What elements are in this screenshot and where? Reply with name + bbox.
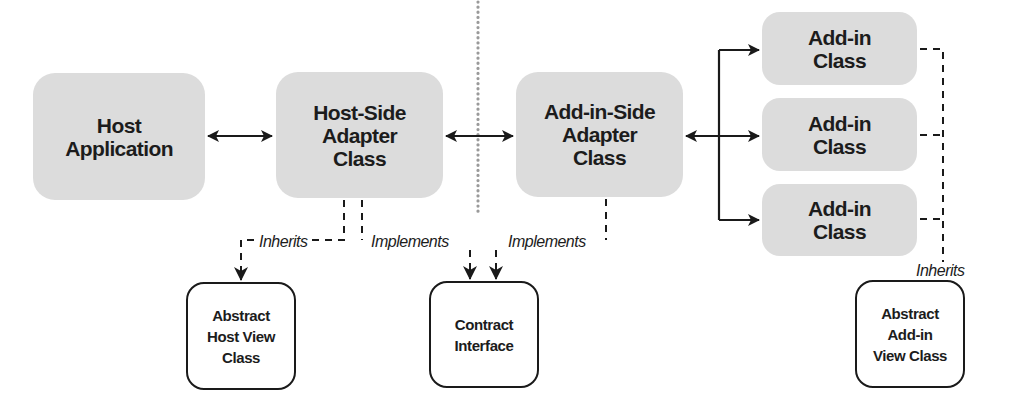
edge-label-addin-inherits: Inherits (914, 262, 966, 280)
node-addin-class-2: Add-in Class (762, 98, 917, 171)
node-host-side-adapter: Host-Side Adapter Class (276, 72, 443, 198)
edge-label-addin-implements: Implements (505, 233, 589, 251)
node-label: Abstract Add-in View Class (873, 303, 947, 366)
node-label: Add-in Class (808, 197, 871, 243)
node-label: Add-in Class (808, 26, 871, 72)
node-contract-interface: Contract Interface (429, 281, 539, 388)
edge-label-host-implements: Implements (368, 233, 452, 251)
node-label: Abstract Host View Class (207, 305, 275, 368)
node-addin-class-1: Add-in Class (762, 12, 917, 85)
node-label: Host-Side Adapter Class (313, 101, 406, 170)
node-label: Add-in Class (808, 112, 871, 158)
dashed-addin-inherits-trunk (920, 49, 943, 278)
diagram-canvas: Inherits Implements Implements Inherits … (0, 0, 1014, 413)
node-abstract-addin-view: Abstract Add-in View Class (855, 280, 965, 388)
node-abstract-host-view: Abstract Host View Class (186, 282, 296, 390)
node-label: Contract Interface (455, 314, 514, 356)
node-host-application: Host Application (33, 73, 205, 200)
node-addin-class-3: Add-in Class (762, 184, 917, 256)
node-label: Host Application (65, 114, 173, 160)
node-addin-side-adapter: Add-in-Side Adapter Class (516, 72, 683, 197)
edge-label-host-inherits: Inherits (256, 233, 310, 251)
node-label: Add-in-Side Adapter Class (544, 100, 655, 169)
